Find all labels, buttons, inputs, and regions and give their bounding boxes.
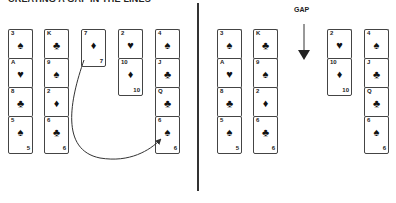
playing-card: 2♥ <box>118 29 143 59</box>
card-suit-icon: ♠ <box>9 39 32 51</box>
playing-card: 7♦7 <box>81 29 106 67</box>
playing-card: 9♠ <box>44 58 69 88</box>
card-rank-bottom: 6 <box>174 145 177 152</box>
card-rank: 8 <box>11 88 14 95</box>
card-suit-icon: ♣ <box>365 68 388 80</box>
card-rank-bottom: 10 <box>342 87 349 94</box>
playing-card: 2♥ <box>327 29 352 59</box>
playing-card: J♣ <box>364 58 389 88</box>
card-suit-icon: ♣ <box>45 39 68 51</box>
card-rank: K <box>256 30 260 37</box>
card-rank: 9 <box>256 59 259 66</box>
card-rank: 3 <box>11 30 14 37</box>
playing-card: 5♠5 <box>217 116 242 154</box>
card-rank: 6 <box>367 117 370 124</box>
playing-card: 8♣ <box>8 87 33 117</box>
card-suit-icon: ♦ <box>45 97 68 109</box>
playing-card: 4♠ <box>364 29 389 59</box>
card-rank: 3 <box>220 30 223 37</box>
playing-card: 6♠6 <box>155 116 180 154</box>
playing-card: 9♠ <box>253 58 278 88</box>
card-rank: A <box>220 59 224 66</box>
playing-card: 10♦10 <box>118 58 143 96</box>
playing-card: A♥ <box>217 58 242 88</box>
card-suit-icon: ♣ <box>156 68 179 80</box>
gap-label: GAP <box>294 6 309 13</box>
card-rank: 2 <box>256 88 259 95</box>
playing-card: K♣ <box>44 29 69 59</box>
playing-card: 3♠ <box>217 29 242 59</box>
card-rank: K <box>47 30 51 37</box>
card-rank-bottom: 5 <box>27 145 30 152</box>
playing-card: 4♠ <box>155 29 180 59</box>
playing-card: 6♣6 <box>44 116 69 154</box>
card-suit-icon: ♦ <box>254 97 277 109</box>
card-rank: 10 <box>330 59 337 66</box>
card-suit-icon: ♣ <box>365 97 388 109</box>
card-rank-bottom: 10 <box>133 87 140 94</box>
playing-card: 2♦ <box>44 87 69 117</box>
card-rank-bottom: 6 <box>63 145 66 152</box>
card-suit-icon: ♦ <box>82 39 105 51</box>
card-suit-icon: ♥ <box>218 68 241 80</box>
playing-card: J♣ <box>155 58 180 88</box>
card-suit-icon: ♣ <box>254 126 277 138</box>
card-suit-icon: ♥ <box>119 39 142 51</box>
card-rank: 9 <box>47 59 50 66</box>
card-rank: 2 <box>47 88 50 95</box>
card-suit-icon: ♠ <box>254 68 277 80</box>
playing-card: 10♦10 <box>327 58 352 96</box>
card-rank: Q <box>158 88 163 95</box>
card-rank-bottom: 6 <box>272 145 275 152</box>
card-rank: J <box>158 59 161 66</box>
card-rank: J <box>367 59 370 66</box>
card-rank: 8 <box>220 88 223 95</box>
card-rank: 4 <box>367 30 370 37</box>
card-suit-icon: ♦ <box>119 68 142 80</box>
card-rank: 5 <box>11 117 14 124</box>
playing-card: Q♣ <box>155 87 180 117</box>
playing-card: 3♠ <box>8 29 33 59</box>
card-suit-icon: ♥ <box>328 39 351 51</box>
playing-card: A♥ <box>8 58 33 88</box>
playing-card: 2♦ <box>253 87 278 117</box>
move-arrow <box>72 60 160 159</box>
card-rank-bottom: 6 <box>383 145 386 152</box>
card-suit-icon: ♣ <box>45 126 68 138</box>
playing-card: 6♣6 <box>253 116 278 154</box>
card-suit-icon: ♠ <box>45 68 68 80</box>
card-suit-icon: ♠ <box>218 126 241 138</box>
card-rank: A <box>11 59 15 66</box>
playing-card: 5♠5 <box>8 116 33 154</box>
card-rank: 10 <box>121 59 128 66</box>
card-suit-icon: ♣ <box>9 97 32 109</box>
card-suit-icon: ♠ <box>9 126 32 138</box>
card-rank: Q <box>367 88 372 95</box>
card-suit-icon: ♠ <box>365 39 388 51</box>
card-rank-bottom: 5 <box>236 145 239 152</box>
card-suit-icon: ♣ <box>218 97 241 109</box>
card-rank: 6 <box>47 117 50 124</box>
card-rank: 5 <box>220 117 223 124</box>
diagram-title: CREATING A GAP IN THE LINES <box>8 0 151 4</box>
card-rank: 6 <box>158 117 161 124</box>
card-suit-icon: ♣ <box>254 39 277 51</box>
playing-card: 8♣ <box>217 87 242 117</box>
playing-card: K♣ <box>253 29 278 59</box>
playing-card: Q♣ <box>364 87 389 117</box>
card-suit-icon: ♠ <box>218 39 241 51</box>
panel-divider <box>197 3 199 191</box>
card-suit-icon: ♠ <box>365 126 388 138</box>
card-suit-icon: ♠ <box>156 39 179 51</box>
card-rank: 2 <box>121 30 124 37</box>
card-suit-icon: ♦ <box>328 68 351 80</box>
card-rank: 2 <box>330 30 333 37</box>
card-rank: 7 <box>84 30 87 37</box>
card-suit-icon: ♥ <box>9 68 32 80</box>
card-suit-icon: ♣ <box>156 97 179 109</box>
card-suit-icon: ♠ <box>156 126 179 138</box>
card-rank: 6 <box>256 117 259 124</box>
playing-card: 6♠6 <box>364 116 389 154</box>
card-rank: 4 <box>158 30 161 37</box>
gap-arrow-head-icon <box>298 50 310 60</box>
